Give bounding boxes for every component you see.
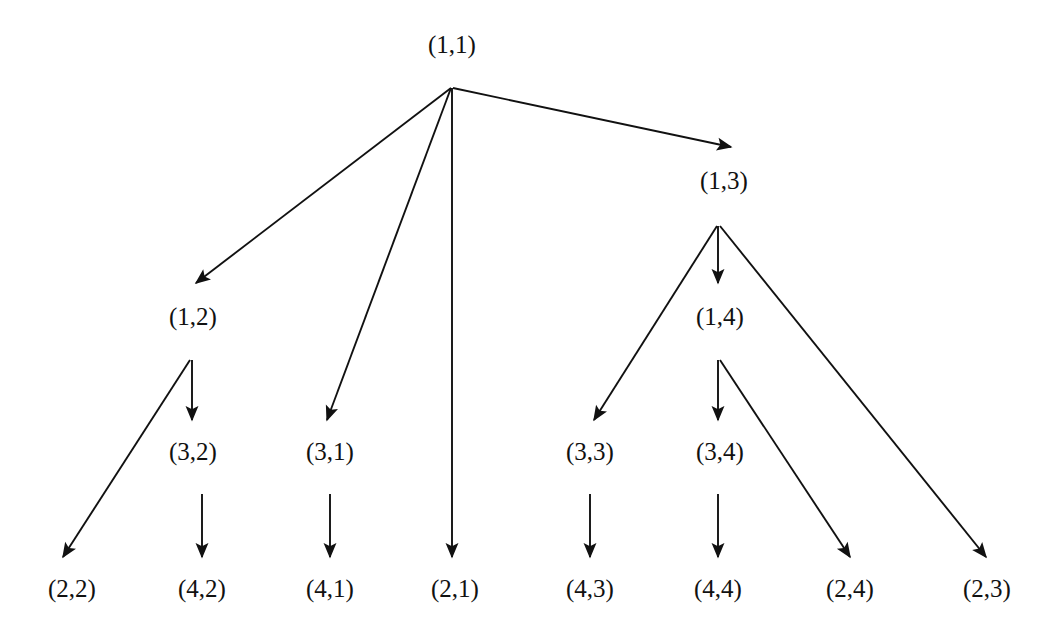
node-label-n42: (4,2)	[178, 575, 226, 603]
diagram-canvas: (1,1)(1,3)(1,2)(1,4)(3,2)(3,1)(3,3)(3,4)…	[0, 0, 1061, 637]
node-label-n21: (2,1)	[431, 575, 479, 603]
node-label-n33: (3,3)	[566, 438, 614, 466]
edge-11-to-31	[327, 88, 451, 420]
node-label-n34: (3,4)	[696, 438, 744, 466]
node-label-n31: (3,1)	[306, 438, 354, 466]
edge-layer	[0, 0, 1061, 637]
node-label-n14: (1,4)	[696, 303, 744, 331]
node-label-n43: (4,3)	[566, 575, 614, 603]
node-label-n41: (4,1)	[306, 575, 354, 603]
node-label-n12: (1,2)	[169, 303, 217, 331]
node-label-n32: (3,2)	[169, 438, 217, 466]
node-label-n13: (1,3)	[700, 167, 748, 195]
edge-11-to-12	[196, 88, 451, 283]
node-label-n23: (2,3)	[963, 575, 1011, 603]
node-label-n24: (2,4)	[826, 575, 874, 603]
node-label-n22: (2,2)	[48, 575, 96, 603]
edge-13-to-23	[720, 226, 986, 557]
node-label-n44: (4,4)	[694, 575, 742, 603]
node-label-n11: (1,1)	[428, 31, 476, 59]
edge-11-to-13	[453, 88, 731, 147]
